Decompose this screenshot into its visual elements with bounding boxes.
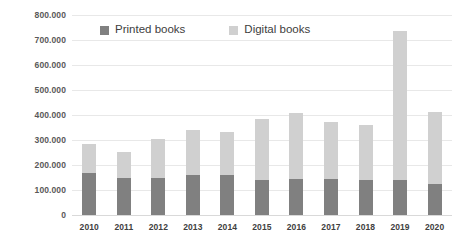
bar-group-2020[interactable] [428, 15, 442, 215]
x-axis-tick-label-2011: 2011 [107, 222, 141, 232]
bar-segment-printed-books-2016[interactable] [289, 179, 303, 215]
bar-segment-printed-books-2011[interactable] [117, 178, 131, 215]
bar-segment-digital-books-2012[interactable] [151, 139, 165, 178]
x-axis-tick-label-2014: 2014 [210, 222, 244, 232]
bar-segment-digital-books-2015[interactable] [255, 119, 269, 180]
bar-segment-digital-books-2020[interactable] [428, 112, 442, 184]
bar-group-2018[interactable] [359, 15, 373, 215]
bar-group-2012[interactable] [151, 15, 165, 215]
x-axis-tick-label-2016: 2016 [279, 222, 313, 232]
y-axis-tick-label: 300.000 [35, 135, 66, 145]
stacked-bar-chart: 800.000700.000600.000500.000400.000300.0… [0, 0, 460, 250]
y-axis-tick-label: 400.000 [35, 110, 66, 120]
bar-segment-printed-books-2017[interactable] [324, 179, 338, 215]
x-axis-tick-label-2012: 2012 [141, 222, 175, 232]
bar-segment-printed-books-2015[interactable] [255, 180, 269, 215]
bar-segment-printed-books-2020[interactable] [428, 184, 442, 215]
x-axis-tick-label-2017: 2017 [314, 222, 348, 232]
bar-group-2015[interactable] [255, 15, 269, 215]
x-axis-tick-label-2019: 2019 [383, 222, 417, 232]
bar-segment-printed-books-2014[interactable] [220, 175, 234, 215]
bar-segment-digital-books-2018[interactable] [359, 125, 373, 180]
x-axis: 2010201120122013201420152016201720182019… [72, 222, 452, 232]
bar-segment-digital-books-2013[interactable] [186, 130, 200, 175]
bar-segment-printed-books-2019[interactable] [393, 180, 407, 215]
bar-group-2011[interactable] [117, 15, 131, 215]
y-axis-tick-label: 0 [61, 210, 66, 220]
x-axis-tick-label-2020: 2020 [418, 222, 452, 232]
y-axis-tick-label: 100.000 [35, 185, 66, 195]
y-axis-tick-label: 800.000 [35, 10, 66, 20]
bar-segment-digital-books-2019[interactable] [393, 31, 407, 180]
bar-group-2019[interactable] [393, 15, 407, 215]
x-axis-tick-label-2010: 2010 [72, 222, 106, 232]
x-axis-tick-label-2018: 2018 [349, 222, 383, 232]
bar-segment-digital-books-2016[interactable] [289, 113, 303, 179]
bar-group-2010[interactable] [82, 15, 96, 215]
bar-group-2014[interactable] [220, 15, 234, 215]
bar-segment-digital-books-2014[interactable] [220, 132, 234, 175]
y-axis-tick-label: 200.000 [35, 160, 66, 170]
bar-group-2016[interactable] [289, 15, 303, 215]
bar-segment-printed-books-2010[interactable] [82, 173, 96, 215]
bar-segment-digital-books-2010[interactable] [82, 144, 96, 173]
bar-group-2013[interactable] [186, 15, 200, 215]
gridline-0 [72, 215, 452, 216]
bar-group-2017[interactable] [324, 15, 338, 215]
y-axis-tick-label: 500.000 [35, 85, 66, 95]
bar-segment-printed-books-2013[interactable] [186, 175, 200, 215]
y-axis-tick-label: 700.000 [35, 35, 66, 45]
y-axis-tick-label: 600.000 [35, 60, 66, 70]
bar-series-container [72, 15, 452, 215]
bar-segment-printed-books-2012[interactable] [151, 178, 165, 215]
bar-segment-digital-books-2017[interactable] [324, 122, 338, 179]
y-axis: 800.000700.000600.000500.000400.000300.0… [0, 15, 66, 215]
bar-segment-printed-books-2018[interactable] [359, 180, 373, 215]
x-axis-tick-label-2015: 2015 [245, 222, 279, 232]
x-axis-tick-label-2013: 2013 [176, 222, 210, 232]
bar-segment-digital-books-2011[interactable] [117, 152, 131, 178]
